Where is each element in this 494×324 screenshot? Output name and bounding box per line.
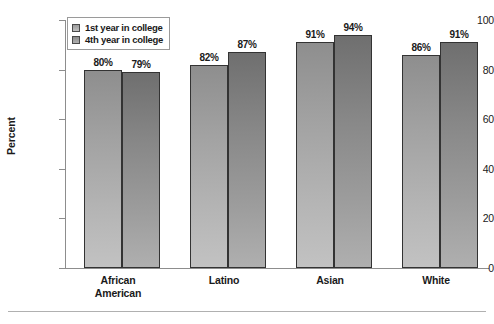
legend-label-series-1: 1st year in college	[85, 22, 163, 33]
footer-rule	[8, 311, 486, 312]
series-2-swatch-icon	[72, 36, 80, 44]
bar-value-label: 82%	[184, 52, 234, 63]
x-tick-label-white: White	[383, 274, 489, 287]
legend: 1st year in college 4th year in college	[67, 17, 170, 50]
bar-asian-series-1	[296, 42, 334, 268]
bar-chart: Percent 020406080100 80%79%82%87%91%94%8…	[0, 0, 494, 324]
y-tick-mark	[59, 268, 65, 269]
y-axis-title: Percent	[5, 81, 17, 191]
legend-item-series-1: 1st year in college	[72, 22, 163, 33]
bar-white-series-1	[402, 55, 440, 268]
bar-value-label: 94%	[328, 22, 378, 33]
x-axis-line	[65, 268, 489, 269]
bar-latino-series-2	[228, 52, 266, 268]
bar-latino-series-1	[190, 65, 228, 268]
bar-asian-series-2	[334, 35, 372, 268]
bar-value-label: 91%	[434, 29, 484, 40]
bar-value-label: 86%	[396, 42, 446, 53]
x-tick-label-line: African	[65, 274, 171, 287]
x-tick-label-line: White	[383, 274, 489, 287]
legend-label-series-2: 4th year in college	[85, 34, 163, 45]
bar-african-american-series-1	[84, 70, 122, 268]
x-tick-label-line: American	[65, 287, 171, 300]
x-tick-label-line: Latino	[171, 274, 277, 287]
series-1-swatch-icon	[72, 24, 80, 32]
x-tick-label-african-american: AfricanAmerican	[65, 274, 171, 300]
plot-area: 80%79%82%87%91%94%86%91%	[65, 20, 489, 268]
x-tick-label-latino: Latino	[171, 274, 277, 287]
bar-white-series-2	[440, 42, 478, 268]
bar-value-label: 79%	[116, 59, 166, 70]
y-axis: Percent	[0, 0, 56, 270]
legend-item-series-2: 4th year in college	[72, 34, 163, 45]
x-tick-label-asian: Asian	[277, 274, 383, 287]
bar-african-american-series-2	[122, 72, 160, 268]
x-tick-label-line: Asian	[277, 274, 383, 287]
bar-value-label: 87%	[222, 39, 272, 50]
